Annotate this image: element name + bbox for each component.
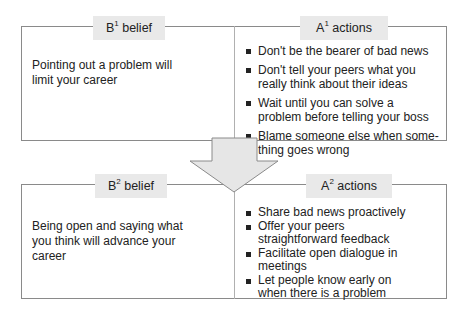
list-item: Facilitate open dialogue in meetings [244, 247, 444, 274]
b2-belief-text: Being open and saying what you think wil… [32, 219, 192, 264]
label-letter: B [106, 21, 114, 35]
label-text: belief [119, 21, 152, 35]
b2-belief-label: B2 belief [95, 174, 167, 198]
label-text: actions [334, 179, 377, 193]
list-item: Wait until you can solve a problem befor… [244, 96, 439, 125]
list-item: Let people know early on when there is a… [244, 274, 444, 301]
a2-actions-list: Share bad news proactively Offer your pe… [244, 206, 444, 301]
top-panel-divider [234, 26, 235, 141]
label-text: belief [121, 179, 154, 193]
list-item: Share bad news proactively [244, 206, 444, 220]
label-letter: B [108, 179, 116, 193]
bottom-panel-divider [234, 184, 235, 299]
label-text: actions [329, 21, 372, 35]
list-item: Don't tell your peers what you really th… [244, 63, 439, 92]
b1-belief-text: Pointing out a problem will limit your c… [32, 58, 192, 88]
down-arrow-icon [186, 134, 282, 196]
b1-belief-label: B1 belief [93, 16, 165, 40]
a1-actions-label: A1 actions [300, 16, 388, 40]
list-item: Offer your peers straightforward feedbac… [244, 220, 444, 247]
a2-actions-label: A2 actions [306, 174, 392, 198]
list-item: Don't be the bearer of bad news [244, 44, 439, 59]
